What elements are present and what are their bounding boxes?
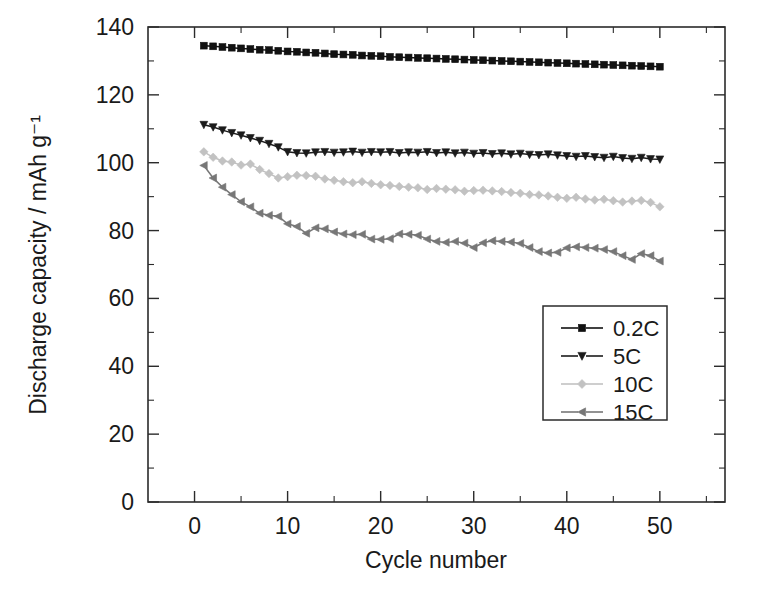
data-point-triangle-left [293, 223, 300, 231]
legend-label: 5C [613, 344, 641, 369]
data-point-triangle-left [339, 230, 346, 238]
data-point-square [238, 45, 245, 52]
data-point-diamond [200, 148, 209, 157]
data-point-diamond [386, 181, 395, 190]
data-point-triangle-down [274, 144, 282, 151]
data-point-triangle-left [600, 246, 607, 254]
data-point-square [629, 62, 636, 69]
data-point-square [228, 44, 235, 51]
data-point-diamond [590, 196, 599, 205]
data-point-diamond [283, 172, 292, 181]
discharge-capacity-line-chart: 020406080100120140 01020304050 Discharge… [0, 0, 758, 598]
data-point-square [312, 49, 319, 56]
data-point-square [405, 54, 412, 61]
chart-legend: 0.2C5C10C15C [543, 306, 667, 425]
data-point-diamond [209, 153, 218, 162]
data-point-square [396, 54, 403, 61]
data-point-diamond [572, 193, 581, 202]
data-point-diamond [218, 157, 227, 166]
data-point-triangle-left [619, 252, 626, 260]
x-tick-label: 0 [188, 513, 201, 539]
x-tick-label: 30 [461, 513, 487, 539]
data-point-diamond [246, 160, 255, 169]
data-point-square [377, 53, 384, 60]
data-point-diamond [274, 174, 283, 183]
data-point-triangle-left [451, 238, 458, 246]
data-point-square [266, 47, 273, 54]
y-axis-title: Discharge capacity / mAh g⁻¹ [25, 115, 51, 415]
data-point-square [294, 48, 301, 55]
data-point-square [535, 59, 542, 66]
data-point-triangle-left [274, 212, 281, 220]
data-point-triangle-left [330, 228, 337, 236]
data-point-triangle-left [442, 239, 449, 247]
data-point-diamond [311, 172, 320, 181]
data-point-diamond [563, 194, 572, 203]
data-point-square [498, 58, 505, 65]
data-point-square [461, 56, 468, 63]
data-point-diamond [302, 171, 311, 180]
y-tick-label: 60 [108, 285, 134, 311]
y-tick-label: 80 [108, 218, 134, 244]
data-point-diamond [442, 185, 451, 194]
data-point-triangle-left [516, 240, 523, 248]
data-point-square [526, 59, 533, 66]
data-point-triangle-left [572, 243, 579, 251]
data-point-square [517, 58, 524, 65]
data-point-diamond [628, 197, 637, 206]
data-point-triangle-left [525, 244, 532, 252]
legend-label: 0.2C [613, 316, 660, 341]
data-point-diamond [637, 196, 646, 205]
data-point-square [610, 62, 617, 69]
y-tick-label: 40 [108, 353, 134, 379]
data-point-triangle-left [488, 237, 495, 245]
y-tick-label: 20 [108, 421, 134, 447]
data-point-triangle-left [544, 249, 551, 257]
data-point-square [638, 63, 645, 70]
data-point-diamond [618, 198, 627, 207]
data-point-square [489, 57, 496, 64]
data-point-diamond [293, 171, 302, 180]
legend-label: 10C [613, 372, 653, 397]
y-axis: 020406080100120140 [96, 14, 725, 515]
data-point-square [210, 43, 217, 50]
data-point-diamond [646, 198, 655, 207]
data-point-triangle-left [581, 244, 588, 252]
data-point-triangle-left [200, 162, 207, 170]
data-point-triangle-left [311, 224, 318, 232]
data-point-diamond [451, 186, 460, 195]
data-point-triangle-left [321, 225, 328, 233]
data-point-diamond [330, 176, 339, 185]
data-point-square [368, 52, 375, 59]
x-tick-label: 40 [554, 513, 580, 539]
data-point-diamond [404, 183, 413, 192]
data-point-diamond [348, 178, 357, 187]
data-point-triangle-left [470, 244, 477, 252]
data-point-triangle-left [209, 174, 216, 182]
data-point-diamond [488, 187, 497, 196]
data-point-triangle-left [609, 248, 616, 256]
data-point-square [554, 60, 561, 67]
data-point-square [303, 49, 310, 56]
data-point-diamond [479, 186, 488, 195]
data-point-square [275, 47, 282, 54]
chart-figure: 020406080100120140 01020304050 Discharge… [0, 0, 758, 598]
data-point-diamond [535, 191, 544, 200]
data-point-triangle-left [535, 248, 542, 256]
data-point-diamond [228, 158, 237, 167]
data-point-diamond [507, 188, 516, 197]
y-tick-label: 140 [96, 14, 134, 40]
series-line [204, 152, 660, 207]
x-tick-label: 50 [647, 513, 673, 539]
data-point-triangle-left [377, 235, 384, 243]
data-point-triangle-left [563, 244, 570, 252]
x-tick-label: 10 [275, 513, 301, 539]
data-point-square [284, 48, 291, 55]
data-point-square [582, 61, 589, 68]
data-point-triangle-left [367, 235, 374, 243]
data-series-group [200, 42, 665, 265]
data-point-square [433, 55, 440, 62]
data-point-diamond [358, 177, 367, 186]
data-point-square [470, 57, 477, 64]
data-point-triangle-left [423, 235, 430, 243]
